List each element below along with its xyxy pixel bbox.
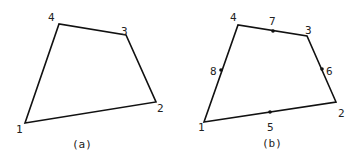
- node-label-8: 8: [210, 65, 217, 78]
- quadrilateral-element-4-node: [25, 24, 156, 123]
- midside-node-5: [268, 110, 272, 114]
- diagram-canvas: 1 2 3 4 (a) 1 2 3 4 5 6 7 8 (b): [0, 0, 364, 161]
- node-label-2: 2: [338, 107, 345, 120]
- node-label-3: 3: [305, 24, 312, 37]
- midside-node-8: [219, 68, 223, 72]
- node-label-1: 1: [16, 123, 23, 136]
- node-label-7: 7: [269, 15, 276, 28]
- node-label-5: 5: [267, 121, 274, 134]
- midside-node-6: [320, 67, 324, 71]
- node-label-4: 4: [48, 11, 55, 24]
- node-label-2: 2: [157, 102, 164, 115]
- node-label-1: 1: [198, 121, 205, 134]
- figure-caption-a: (a): [72, 138, 92, 151]
- midside-node-7: [271, 29, 275, 33]
- figure-caption-b: (b): [262, 137, 282, 150]
- node-label-6: 6: [326, 65, 333, 78]
- node-label-3: 3: [121, 25, 128, 38]
- quadrilateral-element-8-node: [204, 25, 336, 122]
- figure-b: 1 2 3 4 5 6 7 8 (b): [198, 11, 345, 150]
- figure-a: 1 2 3 4 (a): [16, 11, 164, 151]
- node-label-4: 4: [230, 11, 237, 24]
